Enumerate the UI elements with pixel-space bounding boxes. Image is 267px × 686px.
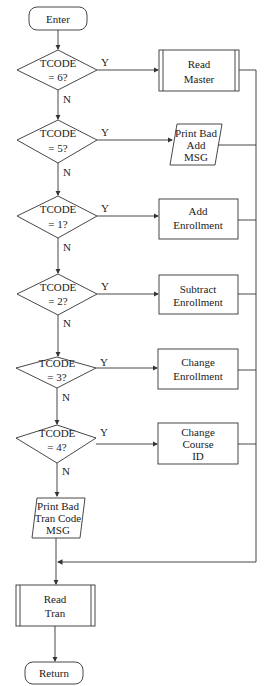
box-text: Enrollment	[173, 370, 223, 382]
change-enrollment-box: Change Enrollment	[158, 349, 238, 389]
start-terminal: Enter	[29, 7, 87, 30]
change-course-id-box: Change Course ID	[158, 423, 238, 464]
decision-text: TCODE	[40, 281, 77, 293]
end-label: Return	[39, 667, 69, 679]
box-text: Enrollment	[173, 296, 223, 308]
box-text: Subtract	[180, 283, 217, 295]
box-text: Change	[181, 356, 215, 368]
read-tran-box: Read Tran	[16, 585, 95, 626]
no-label: N	[63, 166, 71, 178]
box-text: MSG	[46, 524, 70, 536]
no-label: N	[63, 241, 71, 253]
box-text: Print Bad	[175, 127, 217, 139]
box-text: Tran Code	[35, 512, 81, 524]
box-text: Read	[44, 593, 67, 605]
box-text: Master	[184, 73, 215, 85]
box-text: Enrollment	[173, 219, 223, 231]
subtract-enrollment-box: Subtract Enrollment	[159, 275, 238, 314]
decision-tcode-5: TCODE = 5? Y N	[17, 120, 109, 178]
add-enrollment-box: Add Enrollment	[159, 199, 238, 239]
read-master-box: Read Master	[159, 50, 239, 91]
print-bad-tran-code-msg: Print Bad Tran Code MSG	[32, 498, 85, 538]
print-bad-add-msg: Print Bad Add MSG	[170, 124, 222, 165]
yes-label: Y	[101, 126, 109, 138]
decision-text: = 4?	[47, 441, 66, 453]
box-text: Read	[188, 58, 211, 70]
decision-tcode-3: TCODE = 3? Y N	[16, 356, 108, 403]
decision-text: TCODE	[40, 127, 77, 139]
box-text: Add	[187, 139, 206, 151]
decision-text: = 1?	[48, 218, 67, 230]
decision-text: = 6?	[48, 71, 67, 83]
yes-label: Y	[101, 280, 109, 292]
no-label: N	[62, 465, 70, 477]
decision-tcode-4: TCODE = 4? Y N	[16, 425, 108, 477]
no-label: N	[63, 93, 71, 105]
decision-text: = 3?	[47, 371, 66, 383]
decision-text: TCODE	[39, 357, 76, 369]
box-text: Tran	[45, 607, 66, 619]
end-terminal: Return	[25, 662, 83, 684]
box-text: Course	[182, 438, 213, 450]
decision-tcode-2: TCODE = 2? Y N	[17, 274, 109, 329]
box-text: Change	[181, 426, 215, 438]
decision-tcode-6: TCODE = 6? Y N	[17, 50, 109, 105]
flowchart: Enter TCODE = 6? Y N Read Master TCODE =…	[0, 0, 267, 686]
decision-text: TCODE	[40, 57, 77, 69]
decision-text: = 2?	[48, 295, 67, 307]
box-text: MSG	[184, 151, 208, 163]
decision-text: TCODE	[39, 427, 76, 439]
no-label: N	[63, 317, 71, 329]
yes-label: Y	[101, 56, 109, 68]
yes-label: Y	[100, 356, 108, 368]
no-label: N	[62, 391, 70, 403]
yes-label: Y	[100, 426, 108, 438]
decision-text: = 5?	[48, 142, 67, 154]
yes-label: Y	[101, 202, 109, 214]
box-text: ID	[192, 450, 204, 462]
start-label: Enter	[46, 13, 70, 25]
decision-text: TCODE	[40, 203, 77, 215]
box-text: Print Bad	[37, 500, 79, 512]
decision-tcode-1: TCODE = 1? Y N	[17, 196, 109, 253]
box-text: Add	[189, 205, 208, 217]
